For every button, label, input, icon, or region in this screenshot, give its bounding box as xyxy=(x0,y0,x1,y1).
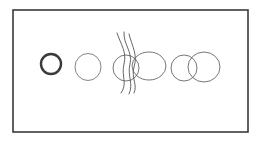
sketch-drawing xyxy=(0,0,259,143)
circle-shape xyxy=(132,52,166,80)
two-overlapping-circles xyxy=(171,52,220,82)
overlapping-circles-with-wavy-lines xyxy=(113,32,166,94)
thick-circle xyxy=(41,54,61,74)
frame-border xyxy=(13,10,248,132)
circle-shape xyxy=(171,55,197,81)
circle-shape xyxy=(75,54,101,81)
circle-shape xyxy=(188,52,220,82)
circle-shape xyxy=(41,54,61,74)
thin-circle xyxy=(75,54,101,81)
wavy-line xyxy=(117,33,125,93)
sketch-canvas xyxy=(0,0,259,143)
wavy-line xyxy=(124,32,131,94)
figures-group xyxy=(41,32,220,94)
